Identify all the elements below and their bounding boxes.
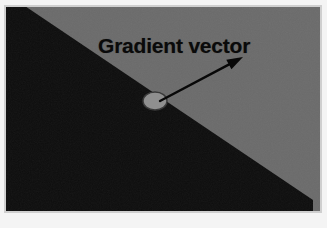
figure-root: Gradient vector	[0, 0, 327, 228]
edge-point-marker	[143, 92, 167, 110]
gradient-vector-label: Gradient vector	[98, 35, 250, 56]
figure-frame: Gradient vector	[4, 5, 322, 213]
image-plate: Gradient vector	[6, 7, 320, 211]
